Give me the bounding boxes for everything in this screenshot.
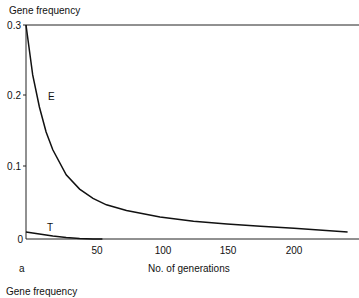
gene-frequency-chart: Gene frequency 0.3 0.2 0.1 0 50 100 150 … xyxy=(0,0,359,298)
y-tick-label: 0.2 xyxy=(7,90,21,101)
y-tick-label: 0.1 xyxy=(7,161,21,172)
series-label-E: E xyxy=(48,91,55,102)
series-line-T xyxy=(26,232,102,239)
x-tick-label: 200 xyxy=(286,245,303,256)
y-tick-label: 0 xyxy=(17,234,23,245)
series-label-T: T xyxy=(47,222,53,233)
x-axis-title: No. of generations xyxy=(148,263,230,274)
x-tick-label: 150 xyxy=(220,245,237,256)
y-axis-title: Gene frequency xyxy=(9,5,80,16)
y-axis-title-panel-b: Gene frequency xyxy=(6,286,77,297)
panel-label: a xyxy=(19,263,25,274)
x-tick-label: 100 xyxy=(155,245,172,256)
x-tick-label: 50 xyxy=(91,245,103,256)
y-tick-label: 0.3 xyxy=(7,20,21,31)
series-line-E xyxy=(26,25,348,232)
